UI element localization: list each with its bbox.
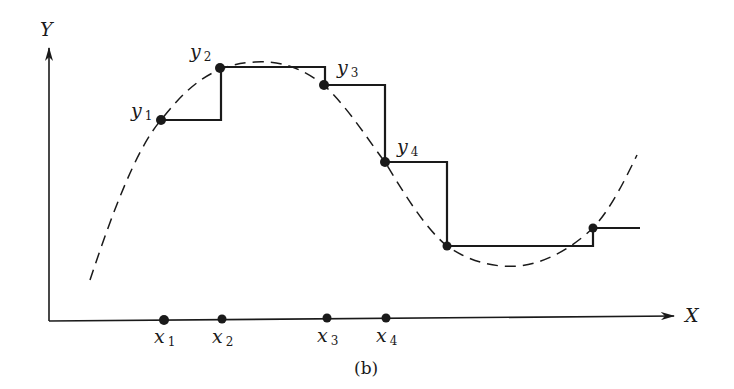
label-x2: x2: [212, 325, 233, 349]
x-sample-2: [218, 315, 227, 324]
label-y4: y4: [396, 135, 419, 159]
sample-point-y2: [215, 63, 225, 73]
sample-point-y1: [156, 115, 166, 125]
label-y2: y2: [189, 40, 211, 64]
x-axis-label: X: [683, 304, 700, 326]
sample-point-y5: [443, 242, 452, 251]
y-axis-label: Y: [40, 18, 55, 40]
label-x1: x1: [154, 325, 175, 349]
x-axis: [49, 316, 674, 321]
sample-and-hold-diagram: Y X y1 y2 y3 y4 x1 x2 x3 x4 (b): [0, 0, 734, 389]
label-y1: y1: [130, 99, 152, 123]
figure-caption: (b): [354, 358, 378, 378]
label-y3: y3: [336, 56, 358, 80]
x-sample-1: [159, 315, 169, 325]
sample-point-y6: [589, 224, 598, 233]
label-x4: x4: [376, 324, 398, 348]
label-x3: x3: [317, 324, 338, 348]
sample-point-y4: [380, 157, 390, 167]
x-sample-3: [323, 314, 332, 323]
sample-point-y3: [319, 80, 329, 90]
continuous-signal-curve: [90, 62, 637, 280]
x-sample-4: [382, 314, 391, 323]
